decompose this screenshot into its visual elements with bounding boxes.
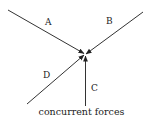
diagram-caption: concurrent forces <box>0 106 163 117</box>
force-c-label: C <box>91 83 98 93</box>
force-d-arrow <box>27 55 84 104</box>
force-a-label: A <box>44 17 52 27</box>
force-diagram: A B D C <box>0 0 163 106</box>
force-b-label: B <box>106 16 113 26</box>
force-b-arrow <box>86 12 143 54</box>
force-d-label: D <box>43 70 50 80</box>
